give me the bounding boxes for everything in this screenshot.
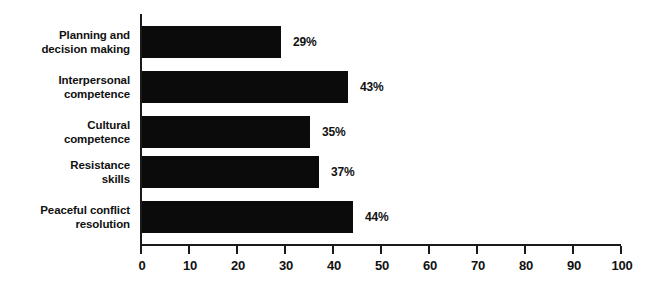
category-label: Cultural competence: [0, 118, 130, 146]
x-axis-tick-label: 100: [602, 258, 642, 273]
x-axis-tick: [332, 246, 334, 254]
bar-value-label: 29%: [293, 35, 316, 49]
x-axis-tick-label: 80: [506, 258, 546, 273]
x-axis-tick-label: 20: [218, 258, 258, 273]
bar-value-label: 37%: [331, 165, 354, 179]
x-axis-tick-label: 70: [458, 258, 498, 273]
x-axis-tick: [524, 246, 526, 254]
x-axis-tick: [428, 246, 430, 254]
bar-row: Resistance skills 37%: [0, 156, 654, 188]
category-label-line2: competence: [64, 88, 130, 100]
bar: [142, 71, 348, 103]
x-axis-tick-label: 10: [170, 258, 210, 273]
category-label: Planning and decision making: [0, 28, 130, 56]
bar: [142, 26, 281, 58]
category-label-line1: Planning and: [59, 29, 130, 41]
bar-row: Cultural competence 35%: [0, 116, 654, 148]
x-axis-tick-label: 30: [266, 258, 306, 273]
bar-value-label: 35%: [322, 125, 345, 139]
bar-row: Planning and decision making 29%: [0, 26, 654, 58]
category-label: Resistance skills: [0, 158, 130, 186]
category-label-line2: skills: [102, 173, 130, 185]
bar: [142, 201, 353, 233]
category-label-line1: Resistance: [70, 159, 130, 171]
bar-row: Peaceful conflict resolution 44%: [0, 201, 654, 233]
category-label-line1: Cultural: [87, 119, 130, 131]
x-axis-tick: [284, 246, 286, 254]
x-axis-tick: [140, 246, 142, 254]
x-axis-tick: [188, 246, 190, 254]
x-axis-tick-label: 60: [410, 258, 450, 273]
x-axis-tick: [620, 246, 622, 254]
bar-value-label: 44%: [365, 210, 388, 224]
bar: [142, 116, 310, 148]
x-axis-tick: [572, 246, 574, 254]
category-label-line1: Peaceful conflict: [40, 204, 130, 216]
x-axis-tick-label: 90: [554, 258, 594, 273]
category-label-line2: competence: [64, 133, 130, 145]
x-axis-tick: [476, 246, 478, 254]
x-axis-tick-label: 0: [122, 258, 162, 273]
x-axis-tick: [236, 246, 238, 254]
bar: [142, 156, 319, 188]
plot-area: Planning and decision making 29% Interpe…: [0, 0, 654, 295]
category-label: Peaceful conflict resolution: [0, 203, 130, 231]
category-label-line2: decision making: [41, 43, 130, 55]
bar-value-label: 43%: [360, 80, 383, 94]
category-label-line1: Interpersonal: [58, 74, 130, 86]
x-axis-tick-label: 40: [314, 258, 354, 273]
category-label: Interpersonal competence: [0, 73, 130, 101]
x-axis-tick-label: 50: [362, 258, 402, 273]
bar-chart: Planning and decision making 29% Interpe…: [0, 0, 654, 295]
x-axis-tick: [380, 246, 382, 254]
bar-row: Interpersonal competence 43%: [0, 71, 654, 103]
category-label-line2: resolution: [75, 218, 130, 230]
